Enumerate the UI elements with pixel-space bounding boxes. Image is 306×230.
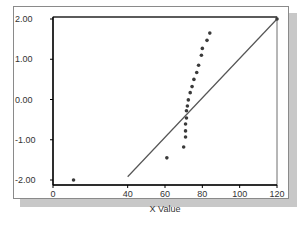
reference-line	[128, 19, 277, 177]
data-point	[72, 178, 76, 182]
x-tick-label: 60	[160, 189, 170, 199]
x-tick-label: 0	[50, 189, 55, 199]
data-point	[195, 71, 199, 75]
x-tick-label: 100	[232, 189, 247, 199]
data-point	[184, 135, 188, 139]
data-point	[208, 31, 212, 35]
y-tick-label: 2.00	[15, 14, 33, 24]
data-point	[205, 39, 209, 43]
scatter-plot: 2.001.000.00-1.00-2.00 0406080100120 X V…	[0, 0, 306, 230]
x-tick-label: 80	[197, 189, 207, 199]
data-point	[192, 78, 196, 82]
x-axis-ticks: 0406080100120	[50, 185, 284, 199]
data-point	[186, 104, 190, 108]
x-axis-title: X Value	[150, 204, 181, 214]
data-point	[182, 145, 186, 149]
data-point	[275, 17, 279, 21]
data-point	[188, 91, 192, 95]
data-point	[185, 109, 189, 113]
data-point	[187, 98, 191, 102]
data-point	[184, 129, 188, 133]
data-points	[72, 17, 279, 182]
y-tick-label: 0.00	[15, 95, 33, 105]
data-point	[201, 47, 205, 51]
data-point	[200, 53, 204, 57]
x-tick-label: 120	[269, 189, 284, 199]
y-tick-label: 1.00	[15, 54, 33, 64]
data-point	[184, 122, 188, 126]
data-point	[197, 63, 201, 67]
data-point	[165, 156, 169, 160]
axes	[53, 17, 277, 185]
y-tick-label: -2.00	[15, 175, 36, 185]
plot-area-border	[53, 17, 277, 185]
x-tick-label: 40	[123, 189, 133, 199]
data-point	[185, 116, 189, 120]
y-axis-ticks: 2.001.000.00-1.00-2.00	[15, 14, 53, 185]
y-tick-label: -1.00	[15, 135, 36, 145]
data-point	[190, 85, 194, 89]
expected-normal-line	[128, 19, 277, 177]
